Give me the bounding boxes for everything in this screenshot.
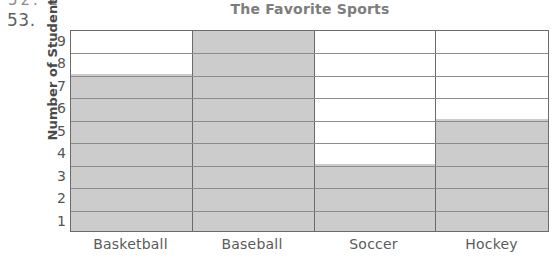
chart-title: The Favorite Sports (70, 1, 550, 17)
y-tick-label-7: 7 (42, 75, 66, 97)
y-tick-label-6: 6 (42, 97, 66, 119)
y-tick-label-5: 5 (42, 120, 66, 142)
bar-cell-soccer (314, 31, 435, 231)
question-number: 53. (7, 10, 36, 30)
x-label-hockey: Hockey (434, 236, 549, 252)
x-label-baseball: Baseball (191, 236, 313, 252)
y-tick-label-2: 2 (42, 187, 66, 209)
bar-cell-baseball (192, 31, 314, 231)
y-axis-tick-labels: 987654321 (42, 30, 66, 232)
y-tick-label-4: 4 (42, 142, 66, 164)
x-label-basketball: Basketball (70, 236, 191, 252)
x-label-soccer: Soccer (313, 236, 434, 252)
y-tick-label-9: 9 (42, 30, 66, 52)
bar-hockey (436, 119, 549, 231)
bar-cell-hockey (435, 31, 549, 231)
y-tick-label-8: 8 (42, 52, 66, 74)
y-tick-label-1: 1 (42, 210, 66, 232)
x-axis-category-labels: BasketballBaseballSoccerHockey (70, 236, 549, 252)
bar-basketball (71, 74, 192, 231)
bars-layer (71, 31, 548, 231)
bar-soccer (315, 164, 435, 231)
bar-baseball (193, 30, 314, 231)
bar-cell-basketball (71, 31, 192, 231)
chart-plot-area (70, 30, 549, 232)
y-tick-label-3: 3 (42, 165, 66, 187)
